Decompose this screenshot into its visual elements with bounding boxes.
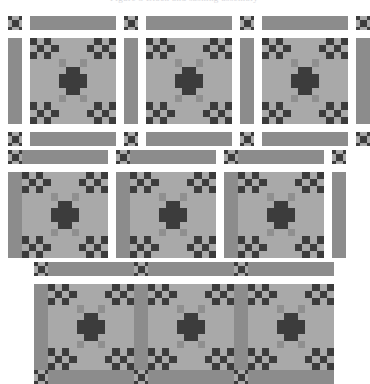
block-patch xyxy=(298,67,305,74)
block-patch xyxy=(160,88,167,95)
block-patch xyxy=(212,298,219,305)
block-patch xyxy=(302,236,309,243)
block-patch xyxy=(291,327,298,334)
block-patch xyxy=(267,236,274,243)
block-patch xyxy=(238,229,245,236)
block-patch xyxy=(66,81,73,88)
cornerstone xyxy=(234,262,248,276)
block-patch xyxy=(310,236,317,243)
cornerstone xyxy=(116,150,130,164)
block-patch xyxy=(160,117,167,124)
block-patch xyxy=(112,305,119,312)
block-patch xyxy=(295,229,302,236)
block-patch xyxy=(284,313,291,320)
block-patch xyxy=(73,59,80,66)
block-patch xyxy=(305,284,312,291)
block-patch xyxy=(312,327,319,334)
block-patch xyxy=(202,186,209,193)
block-patch xyxy=(312,102,319,109)
horizontal-sashing-strip xyxy=(262,16,348,30)
block-patch xyxy=(44,102,51,109)
block-patch xyxy=(151,236,158,243)
block-patch xyxy=(155,298,162,305)
block-patch xyxy=(87,45,94,52)
block-patch xyxy=(84,348,91,355)
block-patch xyxy=(326,95,333,102)
block-patch xyxy=(317,201,324,208)
block-patch xyxy=(245,244,252,251)
block-patch xyxy=(255,305,262,312)
block-patch xyxy=(191,284,198,291)
block-patch xyxy=(298,356,305,363)
block-patch xyxy=(267,215,274,222)
block-patch xyxy=(209,222,216,229)
block-patch xyxy=(91,313,98,320)
block-patch xyxy=(155,291,162,298)
block-patch xyxy=(305,102,312,109)
block-patch xyxy=(225,45,232,52)
block-patch xyxy=(269,320,276,327)
block-patch xyxy=(187,222,194,229)
block-patch xyxy=(155,305,162,312)
cornerstone xyxy=(234,370,248,384)
block-patch xyxy=(177,298,184,305)
block-patch xyxy=(148,320,155,327)
block-patch xyxy=(203,45,210,52)
block-patch xyxy=(209,172,216,179)
block-patch xyxy=(305,363,312,370)
block-patch xyxy=(102,67,109,74)
block-patch xyxy=(73,74,80,81)
block-patch xyxy=(169,348,176,355)
block-patch xyxy=(175,67,182,74)
block-patch xyxy=(291,305,298,312)
block-patch xyxy=(327,313,334,320)
block-patch xyxy=(262,305,269,312)
block-patch xyxy=(227,313,234,320)
block-patch xyxy=(148,363,155,370)
block-patch xyxy=(212,348,219,355)
block-patch xyxy=(148,348,155,355)
block-patch xyxy=(267,186,274,193)
block-patch xyxy=(281,215,288,222)
block-patch xyxy=(148,284,155,291)
block-patch xyxy=(281,186,288,193)
block-patch xyxy=(94,179,101,186)
block-patch xyxy=(91,356,98,363)
block-patch xyxy=(79,244,86,251)
block-patch xyxy=(167,38,174,45)
block-patch xyxy=(269,313,276,320)
block-patch xyxy=(112,341,119,348)
block-patch xyxy=(202,179,209,186)
block-patch xyxy=(84,305,91,312)
block-patch xyxy=(283,45,290,52)
block-patch xyxy=(59,74,66,81)
block-patch xyxy=(212,334,219,341)
block-patch xyxy=(305,327,312,334)
block-patch xyxy=(302,222,309,229)
block-patch xyxy=(101,251,108,258)
block-patch xyxy=(169,341,176,348)
block-patch xyxy=(248,334,255,341)
horizontal-sashing-strip xyxy=(148,370,234,384)
block-patch xyxy=(269,38,276,45)
block-patch xyxy=(101,236,108,243)
block-patch xyxy=(341,110,348,117)
block-patch xyxy=(267,222,274,229)
block-patch xyxy=(153,59,160,66)
block-patch xyxy=(159,186,166,193)
block-patch xyxy=(182,59,189,66)
block-patch xyxy=(51,172,58,179)
block-patch xyxy=(173,244,180,251)
block-patch xyxy=(51,59,58,66)
block-patch xyxy=(327,327,334,334)
block-patch xyxy=(281,244,288,251)
block-patch xyxy=(341,67,348,74)
block-patch xyxy=(175,59,182,66)
block-patch xyxy=(177,320,184,327)
block-patch xyxy=(189,45,196,52)
block-patch xyxy=(312,81,319,88)
block-patch xyxy=(302,251,309,258)
block-patch xyxy=(130,244,137,251)
block-patch xyxy=(37,110,44,117)
block-patch xyxy=(209,193,216,200)
